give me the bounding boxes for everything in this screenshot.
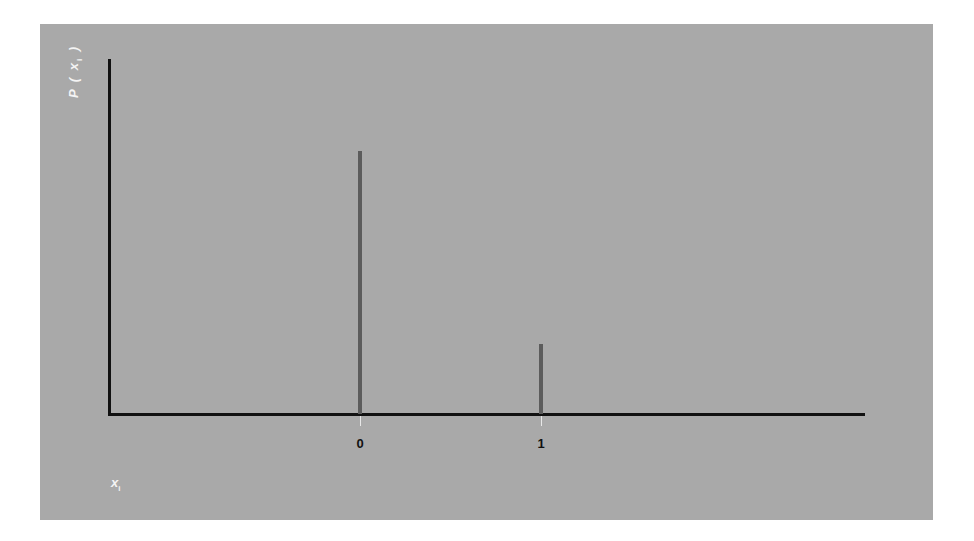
x-tick-1: [541, 416, 542, 426]
x-axis-label: xi: [111, 475, 120, 493]
y-axis: [108, 59, 111, 416]
x-tick-0: [360, 416, 361, 426]
x-axis: [108, 413, 865, 416]
x-tick-label-1: 1: [531, 436, 551, 451]
stem-bar-x0: [358, 151, 362, 414]
y-axis-label: P ( xi ): [66, 45, 84, 98]
x-tick-label-0: 0: [350, 436, 370, 451]
stem-bar-x1: [539, 344, 543, 414]
chart-background-panel: [40, 24, 933, 520]
